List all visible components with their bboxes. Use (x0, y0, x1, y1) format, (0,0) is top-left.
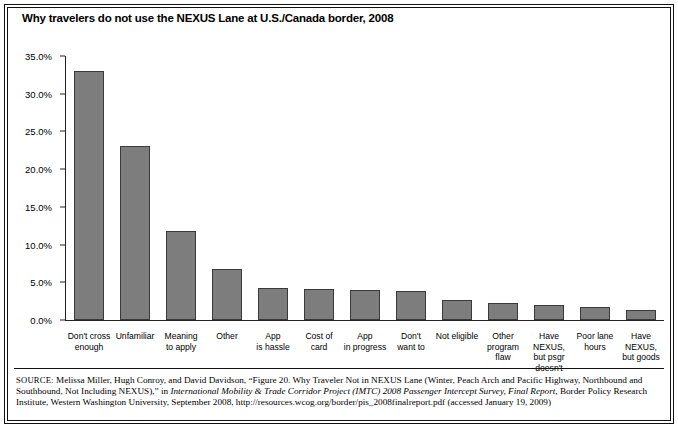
x-axis-category-label-line: is hassle (251, 342, 295, 353)
bar-slot (66, 56, 112, 320)
bar-slot (434, 56, 480, 320)
x-axis-category-label: Have NEXUS,but psgrdoesn't (526, 331, 572, 373)
bar (120, 146, 150, 320)
x-axis-category-label-line: but goods (619, 352, 663, 363)
x-axis-category-label-line: Don't cross (67, 331, 111, 342)
bar-slot (572, 56, 618, 320)
x-axis-category-label: Appin progress (342, 331, 388, 373)
bar-slot (204, 56, 250, 320)
x-axis-category-label-line: want to (389, 342, 433, 353)
y-axis-tick-labels: 0.0%5.0%10.0%15.0%20.0%25.0%30.0%35.0% (14, 56, 60, 320)
y-axis-tick-label: 15.0% (25, 201, 52, 212)
y-axis-tick-label: 0.0% (30, 315, 52, 326)
x-axis-category-label-line: hours (573, 342, 617, 353)
x-axis-category-label-line: App (251, 331, 295, 342)
x-axis-category-label-line: enough (67, 342, 111, 353)
bar (258, 288, 288, 320)
chart-title: Why travelers do not use the NEXUS Lane … (22, 12, 393, 24)
source-note: SOURCE: Melissa Miller, Hugh Conroy, and… (16, 375, 664, 409)
x-axis-category-label-line: Other (481, 331, 525, 342)
x-axis-category-label: Appis hassle (250, 331, 296, 373)
bar-slot (388, 56, 434, 320)
x-axis-line (65, 320, 664, 321)
y-axis-tick-label: 20.0% (25, 164, 52, 175)
source-text-italic: International Mobility & Trade Corridor … (170, 386, 555, 396)
bar (488, 303, 518, 320)
bar (534, 305, 564, 320)
figure-container: Why travelers do not use the NEXUS Lane … (0, 0, 678, 428)
x-axis-category-label-line: Not eligible (435, 331, 479, 342)
y-axis-tick-label: 30.0% (25, 88, 52, 99)
x-axis-category-label-line: to apply (159, 342, 203, 353)
bar (166, 231, 196, 320)
bar (304, 289, 334, 320)
x-axis-category-label-line: App (343, 331, 387, 342)
bar-slot (526, 56, 572, 320)
x-axis-category-label-line: Cost of card (297, 331, 341, 352)
source-label: SOURCE: (16, 375, 54, 385)
bar-slot (480, 56, 526, 320)
bar (212, 269, 242, 320)
x-axis-category-label-line: but psgr (527, 352, 571, 363)
x-axis-category-label: Meaningto apply (158, 331, 204, 373)
bar (74, 71, 104, 320)
x-axis-category-label: Have NEXUS,but goods (618, 331, 664, 373)
bar-slot (296, 56, 342, 320)
y-axis-tick-label: 25.0% (25, 126, 52, 137)
x-axis-category-label: Poor lanehours (572, 331, 618, 373)
x-axis-category-label: Other (204, 331, 250, 373)
x-axis-category-label-line: Don't (389, 331, 433, 342)
x-axis-category-label: Don't crossenough (66, 331, 112, 373)
x-axis-category-label-line: in progress (343, 342, 387, 353)
bar (396, 291, 426, 320)
x-axis-category-label-line: Poor lane (573, 331, 617, 342)
bar-slot (112, 56, 158, 320)
bar (350, 290, 380, 320)
plot-area: 0.0%5.0%10.0%15.0%20.0%25.0%30.0%35.0% (14, 56, 664, 328)
x-axis-category-label: Don'twant to (388, 331, 434, 373)
bar-series (66, 56, 664, 320)
x-axis-category-label-line: flaw (481, 352, 525, 363)
x-axis-category-label-line: Unfamiliar (113, 331, 157, 342)
x-axis-category-label: Unfamiliar (112, 331, 158, 373)
bar-slot (618, 56, 664, 320)
x-axis-category-labels: Don't crossenoughUnfamiliarMeaningto app… (66, 331, 664, 373)
bar (442, 300, 472, 320)
x-axis-category-label: Cost of card (296, 331, 342, 373)
y-axis-tick-label: 35.0% (25, 51, 52, 62)
bar-slot (158, 56, 204, 320)
x-axis-category-label-line: Have NEXUS, (619, 331, 663, 352)
bar-slot (342, 56, 388, 320)
x-axis-category-label-line: Meaning (159, 331, 203, 342)
y-axis-tick-label: 10.0% (25, 239, 52, 250)
bar-slot (250, 56, 296, 320)
x-axis-category-label: Not eligible (434, 331, 480, 373)
x-axis-category-label-line: Have NEXUS, (527, 331, 571, 352)
bar (580, 307, 610, 320)
y-axis-tick-label: 5.0% (30, 277, 52, 288)
x-axis-category-label: Otherprogramflaw (480, 331, 526, 373)
x-axis-category-label-line: program (481, 342, 525, 353)
bar (626, 310, 656, 320)
source-divider (14, 368, 664, 369)
x-axis-category-label-line: Other (205, 331, 249, 342)
